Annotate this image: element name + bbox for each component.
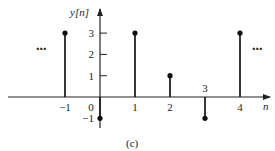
stem-marker bbox=[62, 30, 67, 35]
y-tick-label: 3 bbox=[89, 27, 95, 39]
stem-marker bbox=[167, 73, 172, 78]
stem-plot-figure: 321−1 −101234 y[n] n ... ... (c) bbox=[0, 0, 275, 151]
stem-marker bbox=[132, 30, 137, 35]
y-axis-label: y[n] bbox=[69, 6, 89, 18]
x-tick-label: 2 bbox=[167, 101, 173, 113]
y-tick-label: 2 bbox=[89, 48, 95, 60]
x-tick-label: 4 bbox=[237, 101, 243, 113]
right-continuation: ... bbox=[252, 38, 263, 53]
stem-plot: 321−1 −101234 y[n] n ... ... (c) bbox=[0, 0, 275, 151]
x-tick-label: 1 bbox=[132, 101, 138, 113]
stem-marker bbox=[97, 116, 102, 121]
left-continuation: ... bbox=[36, 38, 47, 53]
y-tick-label: −1 bbox=[82, 112, 94, 124]
stem-marker bbox=[237, 30, 242, 35]
x-tick-label: 3 bbox=[202, 82, 208, 94]
figure-caption: (c) bbox=[126, 137, 139, 150]
x-axis-label: n bbox=[263, 100, 269, 112]
stem-marker bbox=[202, 116, 207, 121]
x-tick-label: 0 bbox=[88, 101, 94, 113]
y-ticks: 321−1 bbox=[82, 27, 107, 124]
x-tick-label: −1 bbox=[59, 101, 71, 113]
y-tick-label: 1 bbox=[89, 70, 95, 82]
